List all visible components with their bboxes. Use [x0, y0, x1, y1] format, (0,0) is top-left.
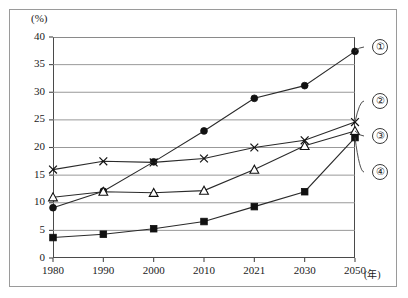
x-tick-label: 1980	[31, 264, 75, 276]
x-tick-label: 2021	[232, 264, 276, 276]
legend-leader-4	[355, 138, 364, 172]
plot-svg-layer	[0, 0, 408, 298]
x-tick-label: 1990	[81, 264, 125, 276]
y-tick-label: 0	[19, 251, 45, 263]
x-tick-label: 2000	[132, 264, 176, 276]
legend-marker-cross: ②	[372, 93, 388, 109]
y-tick-label: 30	[19, 85, 45, 97]
y-tick-label: 5	[19, 223, 45, 235]
y-tick-label: 40	[19, 30, 45, 42]
y-tick-label: 35	[19, 57, 45, 69]
legend-marker-open-triangle: ③	[372, 128, 388, 144]
y-tick-label: 25	[19, 112, 45, 124]
legend-marker-filled-circle: ①	[372, 39, 388, 55]
y-tick-label: 15	[19, 168, 45, 180]
legend-leader-2	[355, 101, 364, 122]
series-2	[49, 118, 359, 173]
x-tick-label: 2030	[283, 264, 327, 276]
y-tick-label: 20	[19, 140, 45, 152]
y-tick-label: 10	[19, 195, 45, 207]
legend-marker-filled-square: ④	[372, 164, 388, 180]
x-tick-label: 2010	[182, 264, 226, 276]
x-axis-unit-label: (年)	[364, 266, 381, 281]
chart-figure: (%) 0510152025303540 1980199020002010202…	[0, 0, 408, 298]
